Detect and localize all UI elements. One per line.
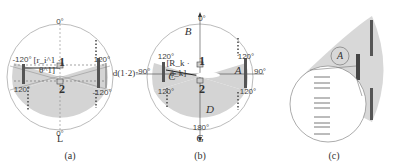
- b-region-c: C: [162, 70, 182, 82]
- panel-a-diagram: [7, 24, 113, 130]
- c-region-a: A: [330, 50, 350, 61]
- panel-c-diagram: [290, 16, 384, 142]
- b-angle-lower-right: 120°: [238, 87, 258, 96]
- b-angle-bottom: 180°: [190, 123, 212, 132]
- caption-a: (a): [50, 150, 90, 161]
- b-bottom-label: G: [180, 133, 220, 144]
- b-angle-right: 90°: [250, 67, 270, 76]
- caption-b: (b): [180, 150, 220, 161]
- b-region-b: B: [178, 25, 198, 37]
- b-angle-top: 0°: [192, 14, 212, 23]
- b-angle-left: -90°: [134, 67, 152, 76]
- a-marker-2: 2: [42, 82, 82, 97]
- a-bottom-label: L: [40, 133, 80, 144]
- a-angle-top: 0°: [50, 17, 70, 26]
- b-angle-lower-left: 120°: [156, 87, 176, 96]
- b-angle-upper-right: 120°: [236, 52, 256, 61]
- b-region-d: D: [200, 103, 220, 115]
- caption-c: (c): [314, 150, 354, 161]
- b-marker-1: 1: [182, 54, 222, 69]
- a-angle-lower-left: 120°: [12, 85, 32, 94]
- b-marker-2: 2: [182, 82, 222, 97]
- b-region-a: A: [228, 64, 248, 76]
- a-angle-upper-right: 120°: [92, 55, 112, 64]
- a-marker-1: 1: [42, 55, 82, 70]
- a-angle-lower-right: -120°: [90, 88, 114, 97]
